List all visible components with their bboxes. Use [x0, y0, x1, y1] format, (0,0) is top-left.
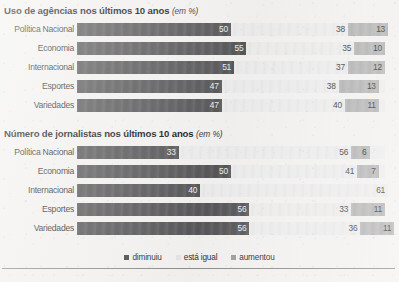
segment-value: 47	[210, 80, 219, 93]
bar-row: Economia50417	[0, 162, 399, 181]
chart-sheet: Uso de agências nos últimos 10 anos (em …	[0, 0, 399, 282]
segment-value: 33	[167, 146, 176, 159]
segment-esta-igual: 35	[246, 42, 354, 55]
segment-esta-igual: 37	[234, 61, 348, 74]
segment-aumentou: 13	[339, 80, 379, 93]
segment-aumentou: 10	[354, 42, 385, 55]
chart-title-unit: (em %)	[172, 6, 198, 16]
bar-row-label: Economia	[0, 162, 74, 181]
segment-value: 7	[371, 165, 375, 178]
segment-value: 55	[234, 42, 243, 55]
segment-diminuiu: 56	[77, 222, 249, 235]
segment-diminuiu: 40	[77, 184, 200, 197]
segment-value: 13	[367, 80, 376, 93]
segment-aumentou: 6	[351, 146, 369, 159]
bar-row: Variedades474011	[0, 96, 399, 115]
segment-value: 51	[222, 61, 231, 74]
segment-esta-igual: 61	[200, 184, 388, 197]
segment-diminuiu: 33	[77, 146, 179, 159]
bar-row-label: Esportes	[0, 77, 74, 96]
segment-value: 56	[238, 222, 247, 235]
bar-row: Economia553510	[0, 39, 399, 58]
bar-row: Variedades563611	[0, 219, 399, 238]
segment-diminuiu: 50	[77, 165, 231, 178]
chart-title-unit: (em %)	[196, 129, 222, 139]
chart-title: Uso de agências nos últimos 10 anos (em …	[0, 4, 399, 18]
segment-diminuiu: 51	[77, 61, 234, 74]
segment-value: 41	[345, 165, 354, 178]
bar-track: 503813	[77, 23, 385, 36]
chart-rows: Política Nacional503813Economia553510Int…	[0, 20, 399, 115]
segment-diminuiu: 47	[77, 99, 222, 112]
segment-esta-igual: 33	[249, 203, 351, 216]
legend-item-esta-igual: está igual	[176, 253, 218, 262]
bar-track: 33566	[77, 146, 385, 159]
bar-track: 563611	[77, 222, 385, 235]
segment-value: 6	[362, 146, 366, 159]
legend-label: aumentou	[239, 253, 274, 262]
legend-swatch-icon	[231, 255, 236, 260]
legend-label: está igual	[184, 253, 218, 262]
segment-value: 37	[336, 61, 345, 74]
segment-value: 35	[342, 42, 351, 55]
bar-row-label: Variedades	[0, 219, 74, 238]
bar-row: Internacional513712	[0, 58, 399, 77]
segment-value: 38	[336, 23, 345, 36]
bar-track: 50417	[77, 165, 385, 178]
bar-row: Política Nacional33566	[0, 143, 399, 162]
segment-aumentou: 12	[348, 61, 385, 74]
bar-track: 513712	[77, 61, 385, 74]
bar-row-label: Internacional	[0, 181, 74, 200]
bottom-divider	[2, 268, 395, 269]
segment-diminuiu: 47	[77, 80, 222, 93]
segment-esta-igual: 40	[222, 99, 345, 112]
segment-aumentou: 11	[351, 203, 385, 216]
segment-aumentou: 7	[357, 165, 379, 178]
segment-value: 50	[219, 23, 228, 36]
segment-value: 13	[376, 23, 385, 36]
segment-esta-igual: 56	[179, 146, 351, 159]
segment-esta-igual: 38	[231, 23, 348, 36]
chart-block-agencias: Uso de agências nos últimos 10 anos (em …	[0, 4, 399, 115]
legend: diminuiuestá igualaumentou	[0, 253, 399, 262]
segment-value: 56	[238, 203, 247, 216]
segment-value: 50	[219, 165, 228, 178]
bar-track: 4061	[77, 184, 385, 197]
bar-row: Política Nacional503813	[0, 20, 399, 39]
segment-aumentou: 11	[345, 99, 379, 112]
bar-track: 563311	[77, 203, 385, 216]
legend-swatch-icon	[124, 255, 129, 260]
segment-value: 11	[383, 222, 391, 235]
segment-diminuiu: 50	[77, 23, 231, 36]
chart-rows: Política Nacional33566Economia50417Inter…	[0, 143, 399, 238]
segment-aumentou: 11	[360, 222, 394, 235]
segment-value: 33	[339, 203, 348, 216]
segment-value: 61	[376, 184, 385, 197]
bar-row-label: Variedades	[0, 96, 74, 115]
segment-aumentou: 13	[348, 23, 388, 36]
segment-value: 56	[339, 146, 348, 159]
legend-label: diminuiu	[132, 253, 161, 262]
segment-esta-igual: 36	[249, 222, 360, 235]
legend-item-aumentou: aumentou	[231, 253, 274, 262]
segment-esta-igual: 41	[231, 165, 357, 178]
bar-row-label: Internacional	[0, 58, 74, 77]
segment-value: 12	[373, 61, 382, 74]
segment-value: 11	[374, 203, 382, 216]
bar-track: 474011	[77, 99, 385, 112]
chart-title-text: Uso de agências nos últimos 10 anos	[4, 5, 169, 16]
segment-value: 10	[373, 42, 382, 55]
legend-item-diminuiu: diminuiu	[124, 253, 161, 262]
bar-row: Esportes473813	[0, 77, 399, 96]
bar-row-label: Política Nacional	[0, 20, 74, 39]
bar-track: 473813	[77, 80, 385, 93]
legend-swatch-icon	[176, 255, 181, 260]
segment-value: 36	[348, 222, 357, 235]
segment-value: 38	[327, 80, 336, 93]
bar-row: Internacional4061	[0, 181, 399, 200]
segment-value: 11	[368, 99, 376, 112]
bar-row-label: Política Nacional	[0, 143, 74, 162]
bar-row: Esportes563311	[0, 200, 399, 219]
segment-value: 47	[210, 99, 219, 112]
chart-block-jornalistas: Número de jornalistas nos últimos 10 ano…	[0, 127, 399, 238]
